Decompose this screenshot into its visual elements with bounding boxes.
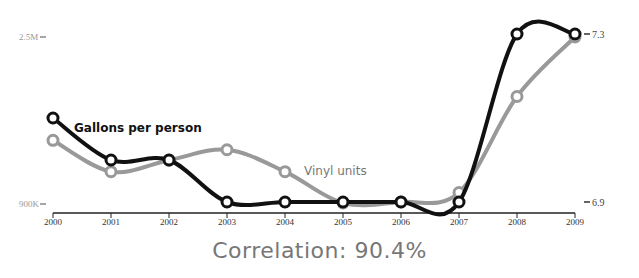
right-axis-bottom-label: 6.9 xyxy=(592,197,605,208)
data-point-marker xyxy=(512,91,522,101)
x-tick-label: 2005 xyxy=(334,217,353,227)
data-point-marker xyxy=(48,135,58,145)
x-tick-label: 2007 xyxy=(450,217,469,227)
chart-canvas: 2000200120022003200420052006200720082009… xyxy=(0,0,639,278)
x-tick-label: 2002 xyxy=(160,217,178,227)
left-axis-top-label: 2.5M xyxy=(19,32,38,42)
data-point-marker xyxy=(454,197,464,207)
gallons-per-person-series xyxy=(48,22,580,215)
data-point-marker xyxy=(106,155,116,165)
data-point-marker xyxy=(570,29,580,39)
x-tick-label: 2008 xyxy=(508,217,527,227)
correlation-caption: Correlation: 90.4% xyxy=(0,238,639,263)
gallons-per-person-label: Gallons per person xyxy=(74,121,202,135)
x-tick-label: 2009 xyxy=(566,217,585,227)
data-point-marker xyxy=(222,197,232,207)
vinyl-units-label: Vinyl units xyxy=(304,164,367,178)
data-point-marker xyxy=(280,167,290,177)
x-tick-label: 2000 xyxy=(44,217,63,227)
data-point-marker xyxy=(222,145,232,155)
x-tick-label: 2006 xyxy=(392,217,411,227)
left-axis-bottom-label: 900K xyxy=(19,199,40,209)
x-tick-label: 2003 xyxy=(218,217,237,227)
data-point-marker xyxy=(48,113,58,123)
data-point-marker xyxy=(106,167,116,177)
data-point-marker xyxy=(512,29,522,39)
data-point-marker xyxy=(338,197,348,207)
data-point-marker xyxy=(280,197,290,207)
x-axis: 2000200120022003200420052006200720082009 xyxy=(44,213,585,227)
data-point-marker xyxy=(164,155,174,165)
right-axis-top-label: 7.3 xyxy=(592,29,605,40)
data-point-marker xyxy=(396,197,406,207)
x-tick-label: 2001 xyxy=(102,217,120,227)
vinyl-units-series xyxy=(48,32,580,208)
x-tick-label: 2004 xyxy=(276,217,295,227)
